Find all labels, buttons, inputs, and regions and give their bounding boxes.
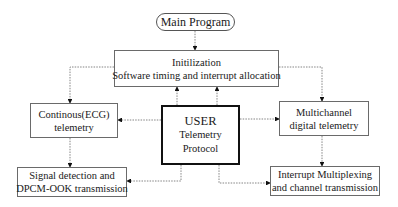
initialization-node: Initilization Software timing and interr…: [114, 50, 279, 87]
ecg-telemetry-node: Continous(ECG) telemetry: [30, 103, 118, 138]
user-line-protocol: Protocol: [183, 142, 219, 156]
edge-init-to-multi: [279, 67, 322, 101]
interrupt-line-2: and channel transmission: [272, 181, 378, 194]
user-title: USER: [185, 114, 217, 128]
multichannel-line-2: digital telemetry: [289, 119, 358, 132]
interrupt-line-1: Interrupt Multiplexing: [278, 168, 372, 181]
signal-line-1: Signal detection and: [29, 169, 115, 182]
edge-init-to-ecg: [70, 67, 114, 103]
edge-user-to-interrupt: [219, 165, 270, 183]
edge-user-to-signal: [127, 165, 181, 181]
signal-line-2: DPCM-OOK transmission: [16, 182, 128, 195]
signal-detection-node: Signal detection and DPCM-OOK transmissi…: [17, 167, 127, 197]
main-program-label: Main Program: [161, 16, 231, 29]
multichannel-telemetry-node: Multichannel digital telemetry: [279, 101, 369, 136]
user-telemetry-protocol-node: USER Telemetry Protocol: [161, 105, 240, 165]
multichannel-line-1: Multichannel: [296, 106, 352, 119]
ecg-line-1: Continous(ECG): [38, 108, 109, 121]
user-line-telemetry: Telemetry: [179, 128, 221, 142]
initialization-title: Initilization: [172, 56, 221, 69]
ecg-line-2: telemetry: [54, 121, 94, 134]
initialization-subtitle: Software timing and interrupt allocation: [112, 69, 281, 82]
main-program-node: Main Program: [156, 13, 235, 31]
interrupt-multiplexing-node: Interrupt Multiplexing and channel trans…: [270, 166, 380, 196]
